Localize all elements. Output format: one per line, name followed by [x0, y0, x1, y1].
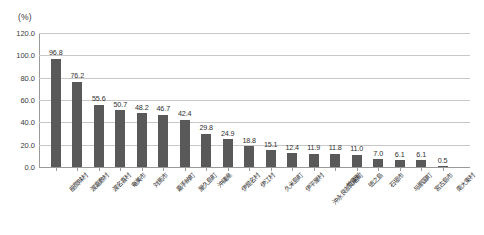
x-axis-labels: 座間味村渡嘉敷村渡名喜村奄美市対馬市嘉手納町屋久島町沖縄県伊是名村伊江村久米島町… [39, 171, 470, 231]
bar-group: 11.9 [303, 33, 324, 167]
x-axis-category-label: 南大東村 [453, 171, 476, 194]
bar-group: 76.2 [67, 33, 88, 167]
bar-group: 15.1 [260, 33, 281, 167]
bar-chart: (%) 0.020.040.060.080.0100.0120.0 96.876… [0, 0, 484, 235]
bar-value-label: 11.8 [329, 143, 342, 152]
bar-value-label: 6.1 [395, 150, 405, 159]
bar-group: 6.1 [410, 33, 431, 167]
x-axis-category-label: 奄美市 [129, 171, 148, 190]
bar [416, 160, 426, 167]
y-axis-tick-label: 40.0 [20, 118, 35, 127]
bar-group: 18.8 [238, 33, 259, 167]
x-axis-category-label: 徳之島 [366, 171, 385, 190]
bar-group: 55.6 [88, 33, 109, 167]
y-axis-tick-label: 100.0 [16, 51, 35, 60]
bar-value-label: 18.8 [242, 136, 256, 145]
bar-value-label: 29.8 [199, 123, 213, 132]
bar [72, 82, 82, 167]
bar [395, 160, 405, 167]
x-axis-category-label: 渡嘉敷村 [88, 171, 111, 194]
bar [201, 134, 211, 167]
bar-value-label: 50.7 [113, 100, 127, 109]
x-axis-category-label: 座間味村 [67, 171, 90, 194]
bar-value-label: 42.4 [178, 109, 192, 118]
bar-group: 24.9 [217, 33, 238, 167]
y-axis-tick-label: 120.0 [16, 29, 35, 38]
bar-value-label: 12.4 [285, 143, 299, 152]
bar-value-label: 6.1 [416, 150, 426, 159]
bar [115, 110, 125, 167]
bar [94, 105, 104, 167]
bar [158, 115, 168, 167]
bar [373, 159, 383, 167]
bar-group: 12.4 [281, 33, 302, 167]
bar [309, 154, 319, 167]
bar-group: 6.1 [389, 33, 410, 167]
x-axis-category-label: 伊江村 [258, 171, 277, 190]
bar [137, 113, 147, 167]
bar [244, 146, 254, 167]
bar-value-label: 76.2 [70, 71, 84, 80]
x-axis-category-label: 久米島町 [282, 171, 305, 194]
bar-value-label: 24.9 [221, 129, 235, 138]
bar [266, 150, 276, 167]
x-axis-category-label: 与那国町 [410, 171, 433, 194]
bar [51, 59, 61, 167]
bar-group: 96.8 [45, 33, 66, 167]
bar-value-label: 46.7 [156, 104, 170, 113]
y-axis-tick-label: 20.0 [20, 140, 35, 149]
bar-value-label: 11.0 [350, 144, 363, 153]
bar-value-label: 96.8 [49, 48, 63, 57]
bar-group: 29.8 [195, 33, 216, 167]
x-axis-category-label: 嘉手納町 [174, 171, 197, 194]
x-axis-category-label: 対馬市 [151, 171, 170, 190]
x-axis-category-label: 宮古島市 [432, 171, 455, 194]
y-axis-unit-caption: (%) [18, 12, 32, 22]
bar-group: 0.5 [432, 33, 453, 167]
bar-value-label: 7.0 [373, 149, 383, 158]
bar-group: 42.4 [174, 33, 195, 167]
bar-value-label: 11.9 [307, 143, 320, 152]
bar [223, 139, 233, 167]
bar-group: 11.8 [324, 33, 345, 167]
bar-value-label: 15.1 [264, 140, 278, 149]
bar [180, 120, 190, 167]
bar-value-label: 0.5 [438, 156, 448, 165]
bar [287, 153, 297, 167]
y-axis-tick-label: 60.0 [20, 96, 35, 105]
bar [352, 155, 362, 167]
bar-value-label: 48.2 [135, 103, 149, 112]
bar [330, 154, 340, 167]
x-axis-category-label: 伊平屋村 [303, 171, 326, 194]
bar-group: 46.7 [153, 33, 174, 167]
bar-value-label: 55.6 [92, 94, 106, 103]
bar-group: 48.2 [131, 33, 152, 167]
bar-group: 50.7 [110, 33, 131, 167]
plot-area: 0.020.040.060.080.0100.0120.0 96.876.255… [39, 33, 470, 167]
x-axis-category-label: 沖縄県 [215, 171, 234, 190]
bar-series: 96.876.255.650.748.246.742.429.824.918.8… [39, 33, 470, 167]
bar-group: 11.0 [346, 33, 367, 167]
bar-group: 7.0 [367, 33, 388, 167]
x-axis-category-label: 石垣市 [387, 171, 406, 190]
y-axis-tick-label: 80.0 [20, 73, 35, 82]
y-axis-tick-label: 0.0 [25, 163, 35, 172]
